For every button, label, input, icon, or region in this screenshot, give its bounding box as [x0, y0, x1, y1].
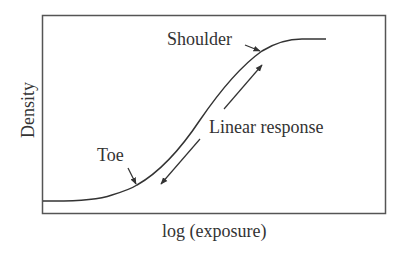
x-axis-label: log (exposure) [162, 222, 266, 240]
characteristic-curve-figure: Density log (exposure) Shoulder Linear r… [0, 0, 405, 254]
y-axis-label: Density [19, 82, 37, 138]
linear-up-arrow [224, 65, 262, 109]
toe-arrow [128, 168, 136, 184]
shoulder-annotation: Shoulder [167, 30, 232, 48]
toe-annotation: Toe [97, 146, 124, 164]
shoulder-arrow [245, 45, 260, 51]
linear-response-annotation: Linear response [209, 118, 323, 136]
